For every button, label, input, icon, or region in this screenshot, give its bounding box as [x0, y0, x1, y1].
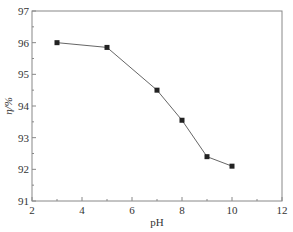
data-point-marker	[230, 164, 235, 169]
x-tick-label: 6	[129, 204, 135, 216]
data-markers	[55, 40, 235, 169]
y-axis: 91929394959697	[18, 5, 36, 207]
x-tick-label: 2	[29, 204, 35, 216]
x-axis-label: pH	[150, 216, 164, 228]
x-tick-label: 12	[277, 204, 288, 216]
data-point-marker	[55, 40, 60, 45]
plot-frame	[32, 11, 282, 201]
y-tick-label: 97	[18, 5, 30, 17]
data-point-marker	[205, 154, 210, 159]
y-axis-label: η/%	[2, 97, 14, 115]
data-line	[57, 43, 232, 167]
x-axis: 24681012	[29, 197, 287, 216]
data-point-marker	[105, 45, 110, 50]
line-chart: 91929394959697 24681012 pH η/%	[0, 0, 293, 232]
x-tick-label: 4	[79, 204, 85, 216]
y-tick-label: 94	[18, 100, 30, 112]
data-point-marker	[180, 118, 185, 123]
x-tick-label: 8	[179, 204, 185, 216]
y-tick-label: 92	[18, 163, 29, 175]
y-tick-label: 95	[18, 68, 30, 80]
y-tick-label: 93	[18, 132, 30, 144]
y-tick-label: 96	[18, 37, 30, 49]
data-point-marker	[155, 88, 160, 93]
y-tick-label: 91	[18, 195, 29, 207]
x-tick-label: 10	[227, 204, 239, 216]
